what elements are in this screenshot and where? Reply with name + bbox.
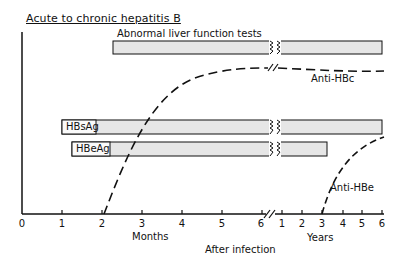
label-anti-hbc: Anti-HBc [311,73,354,84]
tick-month-2: 2 [99,218,105,229]
label-after-infection: After infection [205,244,276,255]
tick-year-1: 1 [279,218,285,229]
curve-anti-hbc [104,68,268,214]
bar-hbeag [72,141,327,157]
tick-year-5: 5 [359,218,365,229]
tick-month-1: 1 [59,218,65,229]
tick-month-3: 3 [139,218,145,229]
tick-year-4: 4 [340,218,346,229]
bar-hbsag [62,119,382,135]
tick-month-0: 0 [19,218,25,229]
label-anti-hbe: Anti-HBe [330,182,374,193]
tick-year-3: 3 [319,218,325,229]
tick-month-5: 5 [219,218,225,229]
label-months: Months [132,231,169,242]
label-abnormal-lft: Abnormal liver function tests [117,28,262,39]
label-hbeag: HBeAg [76,143,110,154]
bar-liver-function-tests [113,40,382,55]
tick-year-6: 6 [379,218,385,229]
label-hbsag: HBsAg [66,121,99,132]
tick-month-6: 6 [258,218,264,229]
curve-anti-hbe [322,137,384,214]
label-years: Years [307,232,333,243]
tick-month-4: 4 [179,218,185,229]
tick-year-2: 2 [299,218,305,229]
